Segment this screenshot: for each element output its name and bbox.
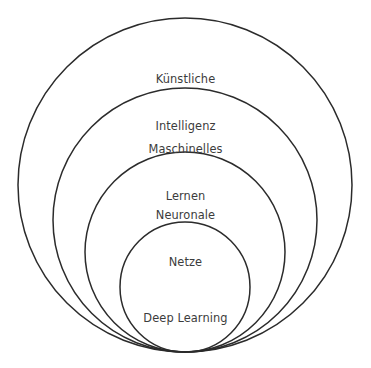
label-deep-learning: Deep Learning	[0, 280, 371, 368]
nested-circles-diagram: Künstliche Intelligenz Maschinelles Lern…	[0, 0, 371, 368]
label-line-primary: Maschinelles	[0, 142, 371, 158]
label-line-secondary: Netze	[0, 255, 371, 271]
label-line-primary: Künstliche	[0, 72, 371, 88]
label-line-primary: Deep Learning	[0, 311, 371, 327]
label-line-primary: Neuronale	[0, 208, 371, 224]
